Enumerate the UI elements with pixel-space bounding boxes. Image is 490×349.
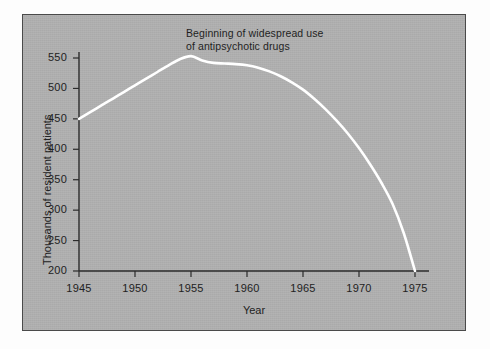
chart-panel: 200250300350400450500550 194519501955196… xyxy=(22,14,466,331)
y-axis-ticks xyxy=(73,58,79,271)
annotation-antipsychotic-drugs: Beginning of widespread use of antipsych… xyxy=(186,27,324,53)
x-tick-label: 1960 xyxy=(222,282,272,294)
x-tick-label: 1950 xyxy=(110,282,160,294)
x-axis-ticks xyxy=(79,271,415,277)
x-tick-label: 1975 xyxy=(390,282,440,294)
y-tick-label: 500 xyxy=(31,81,67,93)
x-axis-title: Year xyxy=(39,304,466,316)
y-tick-label: 200 xyxy=(31,264,67,276)
y-axis-title: Thousands of resident patients xyxy=(41,115,53,265)
x-tick-label: 1970 xyxy=(334,282,384,294)
figure: 200250300350400450500550 194519501955196… xyxy=(0,0,490,349)
x-tick-label: 1955 xyxy=(166,282,216,294)
x-tick-label: 1945 xyxy=(54,282,104,294)
data-series-line xyxy=(79,56,415,271)
axes xyxy=(79,52,429,271)
y-tick-label: 550 xyxy=(31,51,67,63)
x-tick-label: 1965 xyxy=(278,282,328,294)
